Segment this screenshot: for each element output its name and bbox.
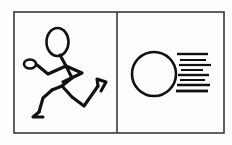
stick-figure-left-arm [37, 65, 66, 74]
stick-figure-head-icon [47, 28, 69, 56]
stick-figure-left-hand-loop [24, 60, 36, 69]
speed-lines-group [176, 54, 211, 91]
circle-with-speed-lines [132, 52, 211, 96]
stick-figure-right-foot [97, 79, 106, 91]
stick-figure-right-leg [62, 86, 98, 106]
stick-figure-hip [52, 86, 62, 90]
stick-figure-left-leg [39, 90, 52, 112]
running-stick-figure [24, 28, 106, 117]
stick-figure-left-foot [33, 112, 43, 117]
motion-circle-icon [132, 52, 176, 96]
drawing-canvas [0, 0, 232, 145]
two-panel-illustration [0, 0, 232, 145]
stick-figure-neck [60, 55, 66, 66]
